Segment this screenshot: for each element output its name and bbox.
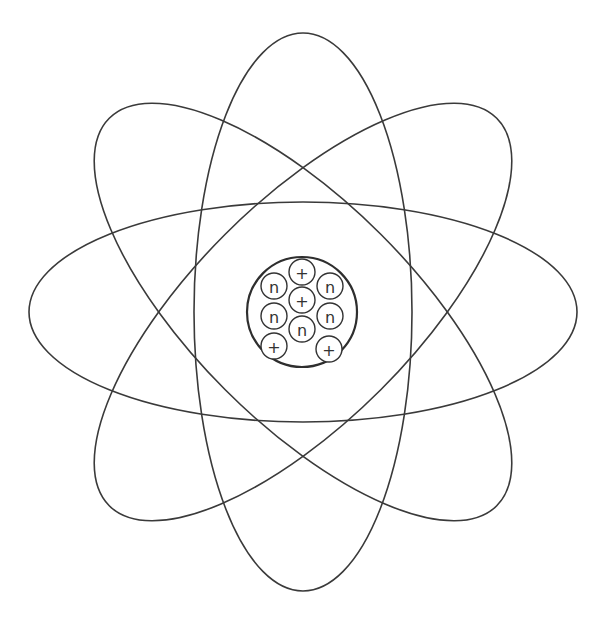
neutron: n — [261, 273, 287, 299]
proton-symbol: + — [267, 338, 280, 357]
neutron-symbol: n — [325, 278, 335, 297]
neutron-symbol: n — [297, 321, 307, 340]
nucleus: +n+nnnn++ — [247, 257, 357, 367]
atom-diagram: +n+nnnn++ — [0, 0, 599, 617]
proton-symbol: + — [322, 341, 335, 360]
neutron-symbol: n — [269, 278, 279, 297]
proton: + — [289, 287, 315, 313]
proton-symbol: + — [295, 292, 308, 311]
proton: + — [316, 336, 342, 362]
proton: + — [261, 333, 287, 359]
neutron-symbol: n — [269, 308, 279, 327]
neutron: n — [261, 303, 287, 329]
neutron-symbol: n — [325, 308, 335, 327]
neutron: n — [289, 316, 315, 342]
proton: + — [289, 259, 315, 285]
proton-symbol: + — [295, 264, 308, 283]
neutron: n — [317, 303, 343, 329]
neutron: n — [317, 273, 343, 299]
